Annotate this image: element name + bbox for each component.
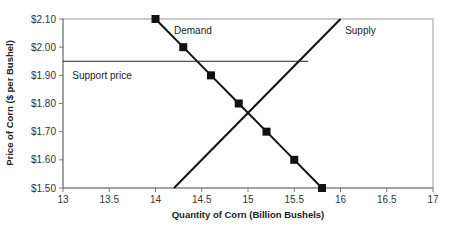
plot-area [63,19,433,188]
annotations: DemandSupplySupport price [72,25,375,81]
demand-marker [207,71,215,79]
x-tick-label: 17 [427,194,439,205]
x-tick-label: 13.5 [100,194,120,205]
demand-marker [235,100,243,108]
x-tick-label: 13 [57,194,69,205]
x-tick-label: 15.5 [285,194,305,205]
supply-line [174,19,341,188]
x-tick-label: 14 [150,194,162,205]
series-layer [63,15,341,192]
x-tick-label: 15 [242,194,254,205]
y-tick-label: $1.70 [31,126,56,137]
y-tick-label: $1.80 [31,98,56,109]
x-axis-title: Quantity of Corn (Billion Bushels) [172,209,325,220]
demand-marker [179,43,187,51]
supply-label: Supply [345,25,376,36]
y-axis-ticks: $1.50$1.60$1.70$1.80$1.90$2.00$2.10 [31,14,63,194]
demand-marker [318,184,326,192]
plot-border [63,19,433,188]
x-tick-label: 16.5 [377,194,397,205]
demand-marker [152,15,160,23]
support-price-label: Support price [72,70,132,81]
demand-marker [263,128,271,136]
y-tick-label: $1.60 [31,154,56,165]
x-tick-label: 16 [335,194,347,205]
demand-marker [290,156,298,164]
y-axis-title: Price of Corn ($ per Bushel) [4,40,15,166]
chart: $1.50$1.60$1.70$1.80$1.90$2.00$2.10 1313… [0,0,468,238]
demand-label: Demand [174,25,212,36]
x-tick-label: 14.5 [192,194,212,205]
y-tick-label: $2.00 [31,42,56,53]
y-tick-label: $1.90 [31,70,56,81]
y-tick-label: $2.10 [31,14,56,25]
y-tick-label: $1.50 [31,183,56,194]
x-axis-ticks: 1313.51414.51515.51616.517 [57,188,439,205]
